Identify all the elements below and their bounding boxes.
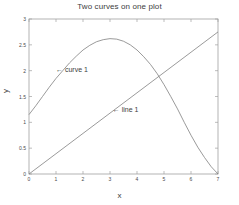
y-tick-label: 3: [10, 16, 26, 22]
annotation-curve-1: ← curve 1: [56, 66, 88, 73]
y-tick-label: 2.5: [10, 42, 26, 48]
data-series-group: [29, 32, 218, 174]
axes-frame: [29, 19, 218, 174]
x-tick-label: 0: [21, 176, 37, 182]
x-axis-label: x: [0, 191, 239, 200]
y-axis-label: y: [1, 89, 10, 93]
y-tick-label: 0.5: [10, 145, 26, 151]
figure-canvas: Two curves on one plot 00.511.522.53 012…: [0, 0, 239, 205]
x-tick-label: 6: [183, 176, 199, 182]
series-line-1: [29, 32, 218, 174]
x-tick-label: 2: [75, 176, 91, 182]
y-tick-label: 1.5: [10, 94, 26, 100]
x-tick-label: 3: [102, 176, 118, 182]
y-tick-label: 1: [10, 119, 26, 125]
annotation-line-1: ← line 1: [113, 106, 139, 113]
plot-area: [0, 0, 239, 205]
y-tick-label: 2: [10, 68, 26, 74]
x-tick-label: 4: [129, 176, 145, 182]
x-tick-label: 1: [48, 176, 64, 182]
axis-ticks: [29, 19, 218, 174]
x-tick-label: 5: [156, 176, 172, 182]
x-tick-label: 7: [210, 176, 226, 182]
